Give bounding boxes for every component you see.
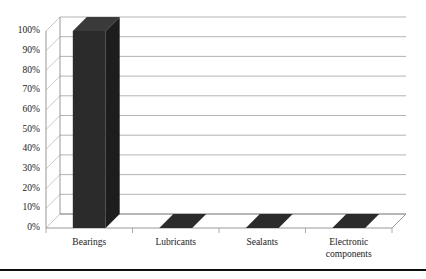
left-wall-riser-80% <box>46 56 60 70</box>
x-tick-label-lubricants: Lubricants <box>155 237 196 247</box>
bar-electronic-components[interactable] <box>332 214 379 228</box>
floor-right-edge <box>392 214 406 228</box>
y-tick-label-30%: 30% <box>23 163 41 173</box>
y-tick-label-80%: 80% <box>23 65 41 75</box>
y-axis-labels-group: 0%10%20%30%40%50%60%70%80%90%100% <box>18 25 40 232</box>
y-tick-label-10%: 10% <box>23 202 41 212</box>
bar-side-face <box>106 17 120 228</box>
x-tick-label-line: Lubricants <box>155 237 196 247</box>
left-wall-riser-30% <box>46 155 60 169</box>
left-wall-riser-60% <box>46 96 60 110</box>
bar-lubricants[interactable] <box>159 214 206 228</box>
left-wall-riser-40% <box>46 135 60 149</box>
y-tick-label-70%: 70% <box>23 84 41 94</box>
left-wall-riser-100% <box>46 17 60 31</box>
x-tick-label-sealants: Sealants <box>246 237 278 247</box>
x-axis-labels-group: BearingsLubricantsSealantsElectroniccomp… <box>72 237 372 259</box>
x-tick-label-line: Electronic <box>329 237 368 247</box>
column-chart-3d: 0%10%20%30%40%50%60%70%80%90%100%Bearing… <box>0 0 426 279</box>
y-tick-label-0%: 0% <box>27 222 40 232</box>
left-wall-riser-90% <box>46 37 60 51</box>
y-tick-label-90%: 90% <box>23 45 41 55</box>
y-tick-label-60%: 60% <box>23 104 41 114</box>
x-tick-label-line: components <box>326 249 372 259</box>
bar-flat-top-face <box>246 214 293 228</box>
left-wall-risers-group <box>46 17 60 228</box>
left-wall-riser-0% <box>46 214 60 228</box>
x-tick-label-line: Bearings <box>72 237 106 247</box>
chart-container: 0%10%20%30%40%50%60%70%80%90%100%Bearing… <box>0 0 426 279</box>
left-wall-riser-10% <box>46 194 60 208</box>
bar-sealants[interactable] <box>246 214 293 228</box>
bar-front-face <box>73 31 106 228</box>
left-wall-riser-50% <box>46 116 60 130</box>
y-tick-label-100%: 100% <box>18 25 40 35</box>
bottom-divider-rule <box>0 269 426 271</box>
x-axis-ticks-group <box>46 228 392 233</box>
x-tick-label-bearings: Bearings <box>72 237 106 247</box>
left-wall-riser-20% <box>46 175 60 189</box>
bar-bearings[interactable] <box>73 17 120 228</box>
y-tick-label-40%: 40% <box>23 143 41 153</box>
y-tick-label-20%: 20% <box>23 183 41 193</box>
x-tick-label-electronic-components: Electroniccomponents <box>326 237 372 259</box>
bars-group <box>73 17 379 228</box>
bar-flat-top-face <box>332 214 379 228</box>
x-tick-label-line: Sealants <box>246 237 278 247</box>
left-wall-riser-70% <box>46 76 60 90</box>
y-tick-label-50%: 50% <box>23 124 41 134</box>
bar-flat-top-face <box>159 214 206 228</box>
